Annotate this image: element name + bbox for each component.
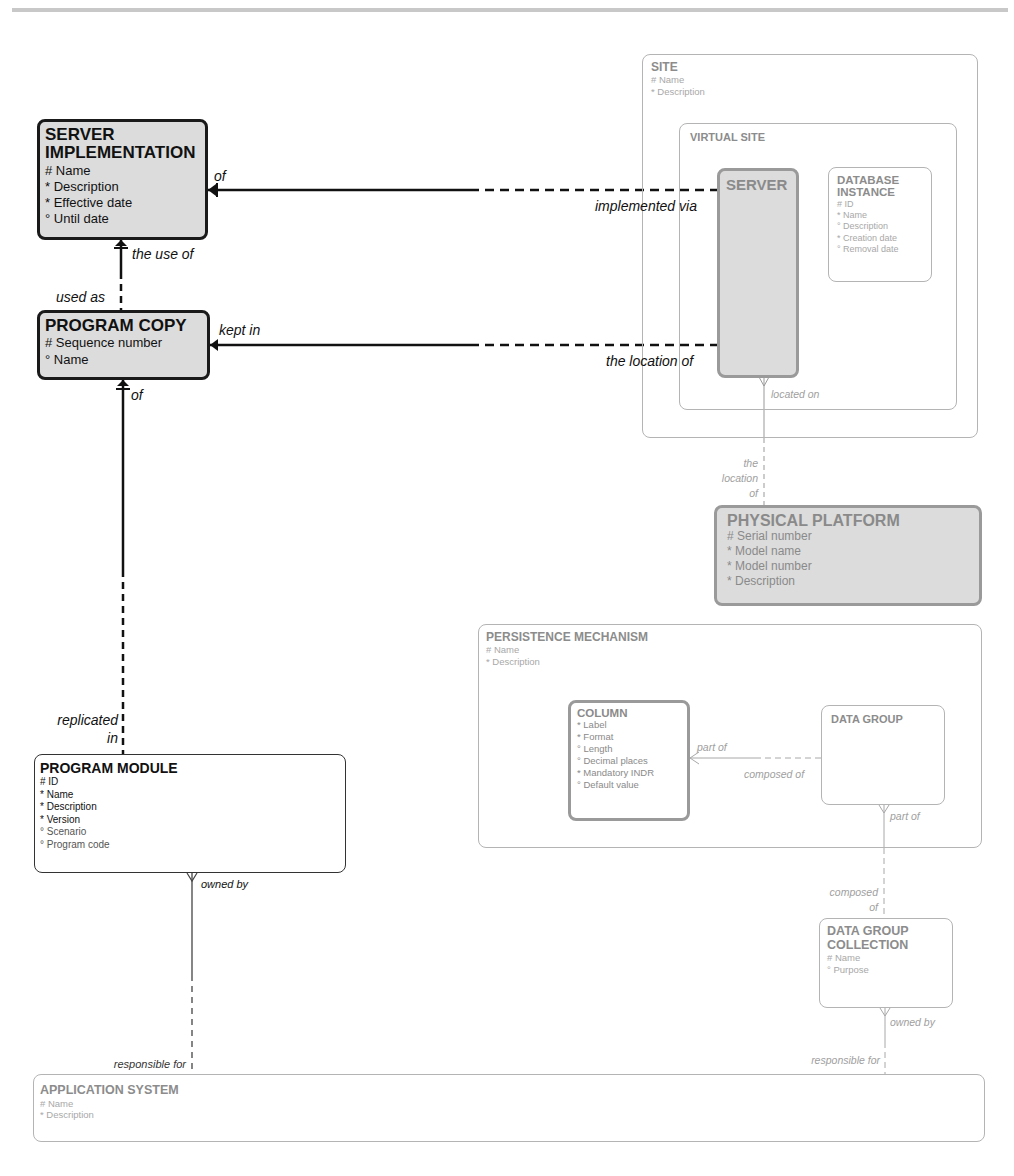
rel-label-composed: composed [800,886,878,898]
rel-program-copy-program-module [116,380,130,754]
attribute: ° Program code [40,839,340,852]
attribute: * Effective date [45,195,200,211]
attribute: ° Removal date [837,244,923,255]
attribute: # Name [40,1098,978,1110]
attribute: # Sequence number [45,335,202,351]
rel-label-composed-of: composed of [744,768,804,780]
entity-title: SITE [651,61,969,74]
rel-label-in: in [44,730,118,746]
attribute: ° Description [837,221,923,232]
rel-label-of: of [214,168,226,184]
rel-label-owned-by: owned by [201,878,248,890]
attribute: ° Name [45,352,202,368]
attribute: * Description [45,179,200,195]
rel-label-located-on: located on [771,388,819,400]
entity-title: APPLICATION SYSTEM [40,1084,978,1098]
attribute: ° Decimal places [577,755,681,767]
attribute: # ID [837,199,923,210]
rel-data-group-collection-application-system [880,1008,890,1074]
attribute: * Description [486,656,974,668]
attribute: # ID [40,776,340,789]
attribute: * Creation date [837,233,923,244]
rel-label-location: location [700,472,758,484]
entity-database-instance[interactable]: DATABASE INSTANCE # ID * Name ° Descript… [828,167,932,282]
attribute: * Model number [727,559,969,574]
attribute: # Name [651,74,969,86]
entity-title: PROGRAM COPY [45,317,202,335]
rel-label-part-of: part of [697,741,727,753]
attribute: # Name [486,644,974,656]
entity-server-implementation[interactable]: SERVER IMPLEMENTATION # Name * Descripti… [37,119,208,240]
entity-title: PROGRAM MODULE [40,761,340,776]
attribute: * Label [577,719,681,731]
entity-title: PHYSICAL PLATFORM [727,512,969,529]
attribute: ° Default value [577,779,681,791]
entity-column[interactable]: COLUMN * Label * Format ° Length ° Decim… [568,700,690,821]
entity-title: DATA GROUP [831,714,935,726]
rel-label-of: of [800,901,878,913]
rel-label-of: of [131,387,143,403]
attribute: * Description [727,574,969,589]
rel-label-kept-in: kept in [219,322,260,338]
rel-label-part-of: part of [890,810,920,822]
entity-application-system[interactable]: APPLICATION SYSTEM # Name * Description [33,1074,985,1142]
entity-title: DATA GROUP COLLECTION [827,925,945,952]
attribute: ° Scenario [40,826,340,839]
attribute: # Name [45,163,200,179]
attribute: * Name [837,210,923,221]
rel-label-used-as: used as [56,289,105,305]
attribute: ° Purpose [827,964,945,976]
entity-title: PERSISTENCE MECHANISM [486,631,974,644]
rel-label-the-use-of: the use of [132,246,194,262]
attribute: * Format [577,731,681,743]
rel-label-the-location-of: the location of [606,353,693,369]
entity-server[interactable]: SERVER [717,168,799,378]
rel-label-the: the [700,457,758,469]
rel-label-owned-by: owned by [890,1016,935,1028]
rel-label-responsible-for: responsible for [60,1058,186,1070]
attribute: ° Until date [45,211,200,227]
attribute: * Name [40,789,340,802]
rel-label-implemented-via: implemented via [595,198,697,214]
attribute: * Model name [727,544,969,559]
rel-program-module-application-system [187,873,197,1074]
rel-label-responsible-for: responsible for [760,1054,880,1066]
entity-title: VIRTUAL SITE [690,132,946,144]
attribute: # Serial number [727,529,969,544]
attribute: * Version [40,814,340,827]
attribute: * Description [40,801,340,814]
entity-title: SERVER IMPLEMENTATION [45,126,200,163]
rel-label-of: of [700,487,758,499]
attribute: * Mandatory INDR [577,767,681,779]
entity-title: COLUMN [577,707,681,719]
entity-data-group[interactable]: DATA GROUP [821,705,945,805]
rel-label-replicated: replicated [44,712,118,728]
attribute: * Description [651,86,969,98]
entity-title: SERVER [726,177,790,193]
entity-program-copy[interactable]: PROGRAM COPY # Sequence number ° Name [37,310,210,380]
entity-physical-platform[interactable]: PHYSICAL PLATFORM # Serial number * Mode… [714,505,982,606]
entity-data-group-collection[interactable]: DATA GROUP COLLECTION # Name ° Purpose [819,918,953,1008]
entity-title: DATABASE INSTANCE [837,174,923,199]
attribute: * Description [40,1109,978,1121]
rel-server-implementation-program-copy [114,240,128,310]
entity-program-module[interactable]: PROGRAM MODULE # ID * Name * Description… [34,754,346,873]
attribute: # Name [827,952,945,964]
attribute: ° Length [577,743,681,755]
